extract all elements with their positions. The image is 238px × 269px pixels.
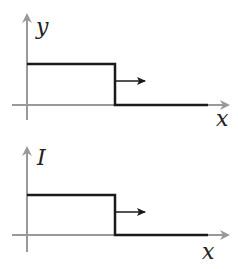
bottom-i-label: I	[36, 145, 47, 170]
top-y-label: y	[35, 14, 49, 39]
bottom-plot: I x	[12, 145, 228, 264]
top-step-curve	[27, 64, 208, 105]
diagram-canvas: y x I x	[0, 0, 238, 269]
bottom-x-label: x	[202, 239, 215, 264]
top-plot: y x	[12, 14, 229, 131]
top-x-label: x	[216, 106, 229, 131]
bottom-step-curve	[27, 195, 208, 235]
